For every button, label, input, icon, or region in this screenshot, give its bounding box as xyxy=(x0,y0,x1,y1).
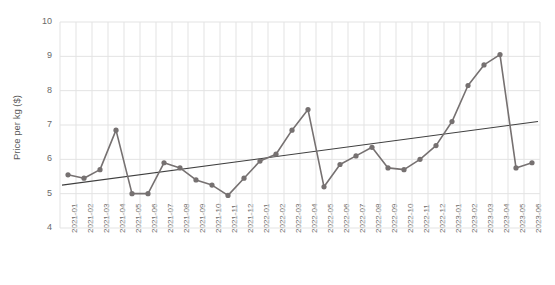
gridlines xyxy=(60,22,540,228)
plot-area xyxy=(0,0,555,285)
price-per-kg-line-chart: Price per kg ($) 10987654 2021-012021-02… xyxy=(0,0,555,285)
